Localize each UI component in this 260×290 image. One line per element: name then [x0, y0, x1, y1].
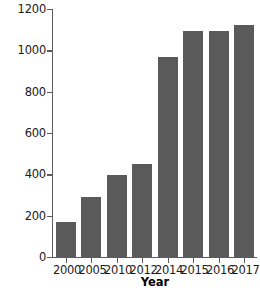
y-axis-tick-mark	[47, 257, 52, 258]
y-axis-tick-labels: 020040060080010001200	[8, 0, 46, 290]
plot-area	[53, 9, 257, 257]
bar	[234, 25, 254, 258]
x-axis-line	[52, 257, 257, 258]
x-axis-title: Year	[53, 276, 257, 289]
bar	[81, 197, 101, 257]
y-axis-tick-label: 0	[12, 252, 46, 262]
y-axis-tick-label: 1200	[12, 4, 46, 14]
y-axis-tick-label: 200	[12, 211, 46, 221]
y-axis-tick-mark	[47, 216, 52, 217]
y-axis-tick-mark	[47, 174, 52, 175]
bar	[56, 222, 76, 257]
y-axis-tick-mark	[47, 9, 52, 10]
bar	[183, 31, 203, 257]
y-axis-tick-mark	[47, 92, 52, 93]
y-axis-tick-mark	[47, 133, 52, 134]
y-axis-tick-label: 400	[12, 169, 46, 179]
y-axis-tick-label: 600	[12, 128, 46, 138]
bar	[209, 31, 229, 257]
y-axis-tick-mark	[47, 50, 52, 51]
bar-chart: GDP US$ billion 020040060080010001200 20…	[0, 0, 260, 290]
bar	[158, 57, 178, 257]
y-axis-tick-label: 800	[12, 87, 46, 97]
y-axis-tick-label: 1000	[12, 45, 46, 55]
bar	[107, 175, 127, 257]
bar	[132, 164, 152, 257]
